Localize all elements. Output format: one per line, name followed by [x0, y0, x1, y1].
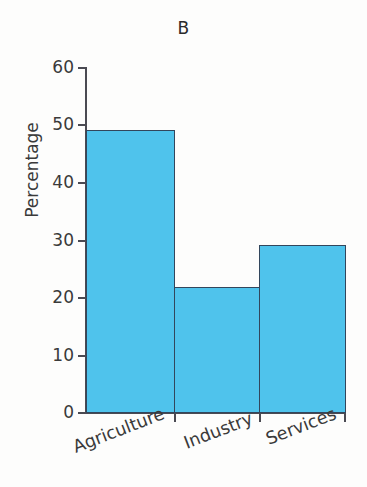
- bar-agriculture[interactable]: [86, 130, 175, 413]
- y-tick-mark-40: [78, 182, 86, 184]
- y-tick-mark-60: [78, 67, 86, 69]
- y-tick-label-20: 20: [14, 289, 74, 306]
- y-tick-label-60: 60: [14, 59, 74, 76]
- x-tick-mark-1: [174, 413, 176, 422]
- y-tick-mark-20: [78, 297, 86, 299]
- y-tick-label-30: 30: [14, 232, 74, 249]
- bar-chart-figure: B Percentage 60 50 40 30 20 10 0 Agricul…: [0, 0, 367, 487]
- y-tick-label-10: 10: [14, 347, 74, 364]
- y-tick-mark-50: [78, 124, 86, 126]
- y-tick-mark-10: [78, 355, 86, 357]
- y-tick-label-50: 50: [14, 116, 74, 133]
- y-tick-mark-0: [78, 412, 86, 414]
- y-tick-mark-30: [78, 240, 86, 242]
- y-tick-label-40: 40: [14, 174, 74, 191]
- bar-services[interactable]: [259, 245, 346, 413]
- x-tick-label-industry: Industry: [181, 408, 255, 452]
- y-tick-label-0: 0: [14, 404, 74, 421]
- x-tick-mark-2: [259, 413, 261, 422]
- x-tick-mark-3: [344, 413, 346, 422]
- bar-industry[interactable]: [174, 287, 260, 414]
- chart-title: B: [0, 18, 367, 38]
